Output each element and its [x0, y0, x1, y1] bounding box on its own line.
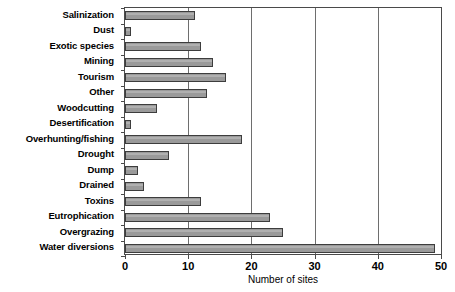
y-axis-tick: [121, 194, 125, 195]
y-axis-tick: [121, 163, 125, 164]
bar-highlight: [126, 122, 130, 124]
category-label: Eutrophication: [48, 211, 114, 221]
y-axis-tick: [121, 241, 125, 242]
x-axis-tick-label: 40: [372, 261, 384, 272]
bar: [125, 135, 242, 144]
category-label: Dust: [93, 25, 114, 35]
category-label: Overhunting/fishing: [26, 134, 114, 144]
bar: [125, 151, 169, 160]
bar: [125, 11, 195, 20]
bar: [125, 182, 144, 191]
bar: [125, 89, 207, 98]
x-axis-tick-label: 10: [182, 261, 194, 272]
category-label: Drought: [78, 149, 114, 159]
bar-highlight: [126, 44, 200, 46]
y-axis-tick: [121, 132, 125, 133]
category-label: Water diversions: [39, 242, 114, 252]
bar-highlight: [126, 29, 130, 31]
y-axis-tick: [121, 8, 125, 9]
x-axis-tick: [251, 255, 252, 259]
y-axis-tick: [121, 148, 125, 149]
category-label: Mining: [84, 56, 114, 66]
bar: [125, 197, 201, 206]
y-axis-tick: [121, 70, 125, 71]
bar-highlight: [126, 199, 200, 201]
plot-area: [124, 7, 442, 255]
y-axis-tick: [121, 86, 125, 87]
y-axis-tick: [121, 179, 125, 180]
y-axis-tick: [121, 39, 125, 40]
x-axis-title: Number of sites: [124, 275, 442, 285]
x-axis-tick: [441, 255, 442, 259]
bar-highlight: [126, 91, 206, 93]
category-label: Overgrazing: [60, 227, 114, 237]
category-label: Other: [89, 87, 114, 97]
category-label: Desertification: [50, 118, 115, 128]
bar: [125, 166, 138, 175]
bar-highlight: [126, 184, 143, 186]
bar: [125, 73, 226, 82]
y-axis-tick: [121, 55, 125, 56]
bar: [125, 213, 270, 222]
bar: [125, 27, 131, 36]
bar-chart: SalinizationDustExotic speciesMiningTour…: [0, 0, 455, 292]
x-axis-tick-label: 50: [435, 261, 447, 272]
bar: [125, 58, 213, 67]
y-axis-tick: [121, 210, 125, 211]
gridline-30: [315, 8, 316, 254]
y-axis-tick: [121, 24, 125, 25]
x-axis-tick: [188, 255, 189, 259]
category-label: Dump: [87, 165, 114, 175]
y-axis-tick: [121, 117, 125, 118]
category-label: Drained: [79, 180, 114, 190]
category-label: Exotic species: [49, 41, 114, 51]
gridline-40: [378, 8, 379, 254]
bar: [125, 42, 201, 51]
x-axis-tick: [378, 255, 379, 259]
bar-highlight: [126, 168, 137, 170]
bar-highlight: [126, 60, 212, 62]
bar-highlight: [126, 75, 225, 77]
bar-highlight: [126, 153, 168, 155]
bar: [125, 228, 283, 237]
category-axis-labels: SalinizationDustExotic speciesMiningTour…: [0, 7, 119, 255]
bar-highlight: [126, 215, 269, 217]
bar-highlight: [126, 246, 434, 248]
bar-highlight: [126, 106, 156, 108]
x-axis-tick-label: 20: [245, 261, 257, 272]
x-axis-tick: [315, 255, 316, 259]
category-label: Salinization: [62, 10, 114, 20]
y-axis-tick: [121, 225, 125, 226]
bar: [125, 104, 157, 113]
bar-highlight: [126, 230, 282, 232]
x-axis-tick-label: 0: [122, 261, 128, 272]
category-label: Toxins: [85, 196, 114, 206]
category-label: Tourism: [78, 72, 114, 82]
category-label: Woodcutting: [57, 103, 114, 113]
bar: [125, 120, 131, 129]
bar-highlight: [126, 137, 241, 139]
bar-highlight: [126, 13, 194, 15]
x-axis-tick-label: 30: [308, 261, 320, 272]
bar: [125, 244, 435, 253]
y-axis-tick: [121, 101, 125, 102]
x-axis-tick: [125, 255, 126, 259]
